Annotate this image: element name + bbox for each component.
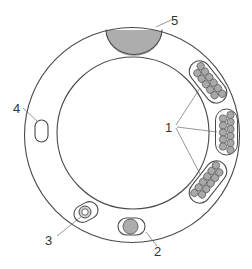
- label-5: 5: [171, 13, 178, 28]
- strand-bundle-top: [185, 57, 231, 108]
- leader-lines: [23, 20, 217, 246]
- inner-bore: [57, 57, 209, 209]
- cross-section-diagram: 1 2 3 4 5: [0, 0, 252, 269]
- empty-channel: [35, 120, 48, 142]
- solid-core-conduit: [118, 218, 145, 235]
- label-4: 4: [13, 101, 20, 116]
- top-gray-segment: [106, 30, 162, 57]
- strand-bundle-middle: [216, 109, 238, 155]
- label-2: 2: [154, 244, 161, 259]
- strand-bundle-bottom: [185, 157, 231, 208]
- label-3: 3: [45, 233, 52, 248]
- label-1: 1: [165, 120, 172, 135]
